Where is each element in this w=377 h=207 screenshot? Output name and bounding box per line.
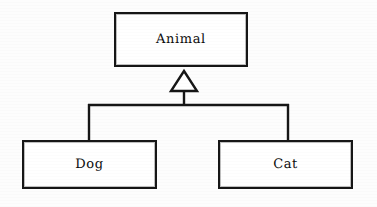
uml-diagram-canvas: Animal Dog Cat <box>0 0 377 207</box>
class-name-cat: Cat <box>273 157 298 172</box>
class-name-animal: Animal <box>156 32 206 47</box>
class-name-dog: Dog <box>75 157 103 172</box>
class-box-dog[interactable]: Dog <box>22 140 157 189</box>
class-box-animal[interactable]: Animal <box>114 12 248 67</box>
inheritance-arrowhead-icon <box>171 71 197 91</box>
class-box-cat[interactable]: Cat <box>218 140 353 189</box>
